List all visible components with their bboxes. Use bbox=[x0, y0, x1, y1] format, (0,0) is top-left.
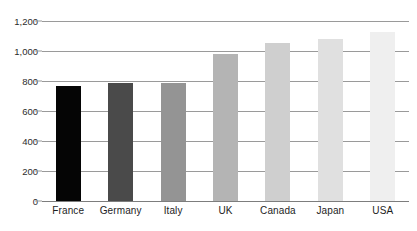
bar bbox=[161, 83, 186, 202]
y-axis-tick-mark bbox=[35, 21, 42, 22]
y-axis-tick-mark bbox=[35, 81, 42, 82]
y-axis-tick-label: 400 bbox=[0, 136, 38, 147]
x-axis-tick-label: Germany bbox=[100, 205, 142, 216]
bar bbox=[265, 43, 290, 201]
plot-area bbox=[42, 21, 409, 201]
y-axis-tick-label: 1,000 bbox=[0, 46, 38, 57]
y-axis-tick-label: 200 bbox=[0, 166, 38, 177]
x-axis-labels: FranceGermanyItalyUKCanadaJapanUSA bbox=[42, 205, 409, 225]
y-axis-tick-label: 1,200 bbox=[0, 16, 38, 27]
bar-chart: 02004006008001,0001,200 FranceGermanyIta… bbox=[0, 0, 417, 231]
axis-baseline bbox=[42, 201, 409, 202]
bar bbox=[318, 39, 343, 201]
bar bbox=[370, 32, 395, 202]
y-axis-tick-mark bbox=[35, 171, 42, 172]
y-axis-tick-mark bbox=[35, 141, 42, 142]
y-axis-tick-label: 800 bbox=[0, 76, 38, 87]
bars-layer bbox=[42, 21, 409, 201]
x-axis-tick-label: UK bbox=[218, 205, 232, 216]
bar bbox=[56, 86, 81, 202]
y-axis-tick-mark bbox=[35, 111, 42, 112]
x-axis-tick-label: Japan bbox=[316, 205, 344, 216]
x-axis-tick-label: Italy bbox=[164, 205, 183, 216]
y-axis-tick-label: 0 bbox=[0, 196, 38, 207]
x-axis-tick-label: Canada bbox=[260, 205, 296, 216]
x-axis-tick-label: France bbox=[52, 205, 84, 216]
bar bbox=[108, 83, 133, 201]
y-axis-tick-label: 600 bbox=[0, 106, 38, 117]
x-axis-tick-label: USA bbox=[372, 205, 393, 216]
y-axis-tick-mark bbox=[35, 51, 42, 52]
y-axis-tick-mark bbox=[35, 201, 42, 202]
bar bbox=[213, 54, 238, 201]
